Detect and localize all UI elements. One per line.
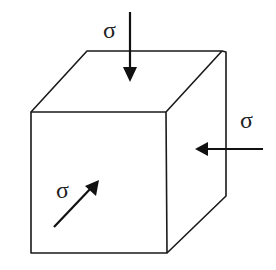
top-stress-arrow [123,12,137,82]
top-stress-label: σ [103,17,116,43]
stress-cube-diagram: σ σ σ [0,0,276,270]
cube [31,51,226,253]
right-arrow-head-icon [195,142,208,156]
right-stress-arrow [195,142,263,156]
cube-top-face [31,51,222,112]
top-arrow-head-icon [123,67,137,82]
cube-front-face [31,112,167,253]
right-stress-label: σ [240,107,253,133]
cube-right-face [167,51,226,253]
front-stress-label: σ [56,177,69,203]
